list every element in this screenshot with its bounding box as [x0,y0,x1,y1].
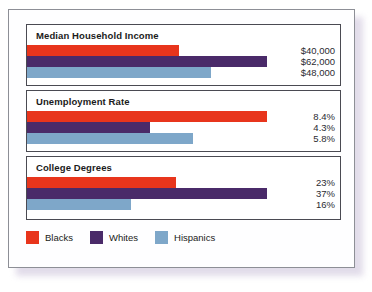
chart-legend: Blacks Whites Hispanics [26,228,232,246]
bar-row [27,111,267,122]
group-title: College Degrees [36,162,112,173]
chart-group-unemployment-rate: Unemployment Rate 8.4% 4.3% 5.8% [26,90,341,152]
bar-row [27,45,179,56]
legend-item-whites: Whites [90,231,138,244]
chart-group-college-degrees: College Degrees 23% 37% 16% [26,156,341,220]
bar-whites [27,122,150,133]
bars-area [27,177,267,214]
bar-hispanics [27,199,131,210]
value-label-whites: 37% [316,188,335,199]
comparison-bar-chart-figure: Median Household Income $40,000 $62,000 … [8,9,355,268]
bar-row [27,122,150,133]
group-title: Median Household Income [36,30,159,41]
legend-item-blacks: Blacks [26,231,73,244]
bars-area [27,111,267,146]
bar-row [27,188,267,199]
legend-swatch-icon [90,231,103,244]
group-title: Unemployment Rate [36,96,130,107]
legend-swatch-icon [155,231,168,244]
value-label-blacks: 23% [316,177,335,188]
value-label-hispanics: $48,000 [301,67,335,78]
bars-area [27,45,267,80]
bar-blacks [27,111,267,122]
bar-hispanics [27,67,211,78]
chart-group-median-household-income: Median Household Income $40,000 $62,000 … [26,24,341,86]
bar-whites [27,56,267,67]
bar-row [27,56,267,67]
bar-hispanics [27,133,193,144]
bar-row [27,67,211,78]
legend-label: Whites [109,232,138,243]
value-label-blacks: $40,000 [301,45,335,56]
legend-label: Blacks [45,232,73,243]
bar-blacks [27,177,176,188]
value-label-hispanics: 5.8% [313,133,335,144]
bar-row [27,199,131,210]
bar-row [27,177,176,188]
legend-item-hispanics: Hispanics [155,231,215,244]
value-label-blacks: 8.4% [313,111,335,122]
bar-whites [27,188,267,199]
value-label-whites: 4.3% [313,122,335,133]
legend-swatch-icon [26,231,39,244]
legend-label: Hispanics [174,232,215,243]
bar-row [27,133,193,144]
value-label-whites: $62,000 [301,56,335,67]
bar-blacks [27,45,179,56]
value-label-hispanics: 16% [316,199,335,210]
